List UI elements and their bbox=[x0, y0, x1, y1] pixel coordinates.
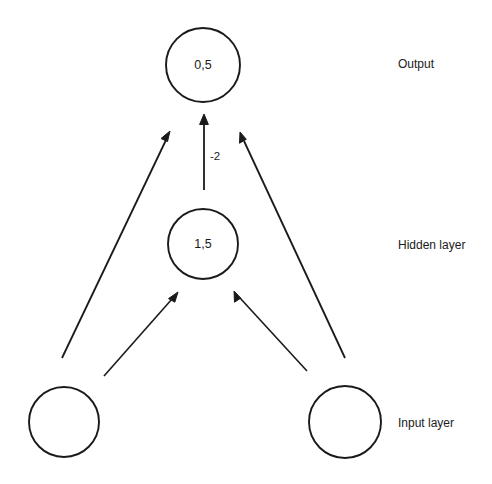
edge-input-right-to-hidden bbox=[234, 291, 307, 371]
edge-input-left-to-output-arrowhead bbox=[161, 131, 170, 142]
edge-input-right-to-hidden-line bbox=[240, 298, 307, 371]
edge-input-right-to-output bbox=[240, 132, 346, 358]
input-node-right-circle[interactable] bbox=[309, 386, 381, 458]
hidden-node-value: 1,5 bbox=[194, 237, 211, 251]
input-node-left-circle[interactable] bbox=[29, 387, 99, 457]
edge-input-right-to-output-arrowhead bbox=[240, 132, 247, 143]
edge-hidden-to-output-arrowhead bbox=[200, 114, 209, 125]
input-node-right[interactable] bbox=[309, 386, 381, 458]
layer-label-input: Input layer bbox=[398, 417, 454, 429]
edge-input-right-to-hidden-arrowhead bbox=[234, 291, 241, 302]
layer-label-output: Output bbox=[398, 58, 434, 70]
output-node-value: 0,5 bbox=[194, 58, 211, 72]
edge-weight-label: -2 bbox=[210, 150, 220, 162]
edge-input-left-to-hidden bbox=[104, 292, 178, 376]
input-node-left[interactable] bbox=[29, 387, 99, 457]
layer-label-hidden: Hidden layer bbox=[398, 239, 465, 251]
hidden-node[interactable]: 1,5 bbox=[168, 209, 238, 279]
edge-input-left-to-output bbox=[62, 131, 170, 358]
edge-input-left-to-output-line bbox=[62, 140, 166, 358]
output-node[interactable]: 0,5 bbox=[166, 28, 240, 102]
diagram-canvas: -2 0,5 1,5 Output Hidden layer Input lay… bbox=[0, 0, 492, 484]
edge-input-left-to-hidden-line bbox=[104, 299, 172, 376]
edge-hidden-to-output: -2 bbox=[200, 114, 221, 190]
edge-input-right-to-output-line bbox=[244, 141, 345, 358]
